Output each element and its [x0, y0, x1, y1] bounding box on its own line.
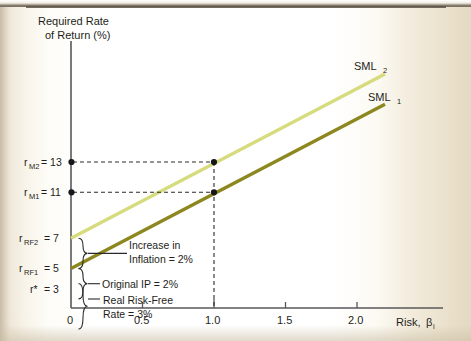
y-label-rm2-subscript: M2: [29, 162, 39, 171]
sml1-line: [71, 104, 385, 268]
y-label-rrf2-subscript: RF2: [24, 238, 38, 247]
page-bottom-shadow: [0, 325, 471, 341]
axis-point-rm2: [68, 159, 74, 165]
y-label-rm2-base: r: [24, 156, 28, 168]
y-label-rm2-value: = 13: [41, 156, 62, 168]
y-label-rstar-value: = 3: [44, 283, 59, 295]
brace-real-risk-free: [79, 284, 88, 330]
y-label-rrf1-subscript: RF1: [24, 268, 38, 277]
figure-root: Required Rate of Return (%) Risk, β i 0 …: [0, 0, 471, 341]
y-axis-label-line2: of Return (%): [45, 29, 110, 41]
y-label-rstar-base: r*: [30, 283, 38, 295]
market-point-sml2: [211, 159, 217, 165]
y-axis-label-line1: Required Rate: [38, 15, 109, 27]
annotation-real-rf-line1: Real Risk-Free: [103, 294, 173, 306]
annotation-real-rf-line2: Rate = 3%: [103, 308, 152, 320]
sml2-label-subscript: 2: [383, 66, 387, 75]
y-label-rrf1-base: r: [19, 262, 23, 274]
y-label-rrf2-value: = 7: [44, 232, 59, 244]
y-label-rm1-value: = 11: [41, 186, 61, 198]
sml-chart: Required Rate of Return (%) Risk, β i 0 …: [0, 0, 471, 341]
sml2-label-base: SML: [354, 60, 377, 72]
y-label-rrf2-base: r: [19, 232, 23, 244]
sml1-label-subscript: 1: [397, 97, 401, 106]
y-label-rrf1-value: = 5: [44, 262, 59, 274]
annotation-original-ip: Original IP = 2%: [102, 278, 178, 290]
y-label-rm1-base: r: [24, 186, 28, 198]
y-label-rm1-subscript: M1: [29, 192, 39, 201]
market-point-sml1: [211, 189, 217, 195]
sml2-line: [71, 74, 385, 238]
sml1-label-base: SML: [368, 91, 391, 103]
axis-point-rm1: [68, 189, 74, 195]
annotation-inflation-line1: Increase in: [129, 239, 181, 251]
annotation-inflation-line2: Inflation = 2%: [129, 253, 193, 265]
